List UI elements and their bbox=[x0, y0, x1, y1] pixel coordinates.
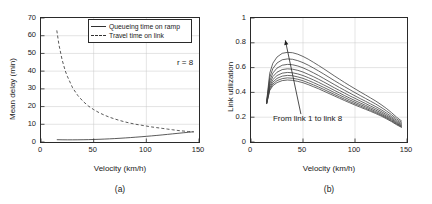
y-tick-label: 20 bbox=[14, 101, 36, 110]
panel-b-curves bbox=[251, 18, 407, 142]
x-tick-label: 0 bbox=[235, 145, 265, 154]
x-tick-label: 150 bbox=[391, 145, 421, 154]
panel-a-annotation-r: r = 8 bbox=[177, 58, 193, 67]
legend-label-queueing: Queueing time on ramp bbox=[109, 22, 180, 31]
panel-a-legend: Queueing time on ramp Travel time on lin… bbox=[88, 19, 192, 43]
x-tick-label: 50 bbox=[287, 145, 317, 154]
legend-label-travel: Travel time on link bbox=[109, 31, 164, 40]
y-tick-label: 10 bbox=[14, 119, 36, 128]
panel-b: Link utilization 00.20.40.60.81 05010015… bbox=[216, 0, 432, 204]
x-tick-label: 100 bbox=[339, 145, 369, 154]
figure-two-panel: Mean delay (min) 010203040506070 0501001… bbox=[0, 0, 432, 204]
panel-b-annotation-link-range: From link 1 to link 8 bbox=[273, 114, 342, 123]
x-tick-label: 100 bbox=[130, 145, 160, 154]
panel-b-caption: (b) bbox=[309, 184, 349, 194]
y-tick-label: 70 bbox=[14, 13, 36, 22]
x-tick-label: 150 bbox=[183, 145, 213, 154]
y-tick-label: 0.8 bbox=[224, 37, 246, 46]
x-tick-label: 0 bbox=[25, 145, 55, 154]
y-tick-label: 30 bbox=[14, 83, 36, 92]
panel-a-caption: (a) bbox=[100, 184, 140, 194]
panel-b-plot-area bbox=[250, 17, 408, 143]
y-tick-label: 60 bbox=[14, 30, 36, 39]
panel-a: Mean delay (min) 010203040506070 0501001… bbox=[0, 0, 216, 204]
y-tick-label: 0.4 bbox=[224, 87, 246, 96]
panel-a-x-axis-label: Velocity (km/h) bbox=[70, 164, 170, 173]
legend-entry-queueing: Queueing time on ramp bbox=[91, 22, 188, 31]
y-tick-label: 0.2 bbox=[224, 112, 246, 121]
panel-b-x-axis-label: Velocity (km/h) bbox=[279, 164, 379, 173]
legend-entry-travel: Travel time on link bbox=[91, 31, 188, 40]
y-tick-label: 1 bbox=[224, 13, 246, 22]
legend-key-dashed-line-icon bbox=[91, 32, 106, 39]
x-tick-label: 50 bbox=[78, 145, 108, 154]
y-tick-label: 40 bbox=[14, 66, 36, 75]
legend-key-solid-line-icon bbox=[91, 23, 106, 30]
y-tick-label: 50 bbox=[14, 48, 36, 57]
y-tick-label: 0.6 bbox=[224, 62, 246, 71]
